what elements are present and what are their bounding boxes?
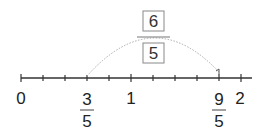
label-3-5-denominator: 5 (82, 112, 91, 131)
label-9-5-denominator: 5 (214, 112, 223, 131)
label-9-5-numerator: 9 (214, 90, 223, 109)
label-0: 0 (16, 89, 25, 108)
jump-numerator: 6 (149, 12, 158, 31)
number-line-diagram: 6 5 0 1 2 3 5 9 5 (0, 0, 266, 133)
label-2: 2 (235, 89, 244, 108)
jump-denominator: 5 (149, 44, 158, 63)
label-3-5-numerator: 3 (82, 90, 91, 109)
label-1: 1 (126, 89, 135, 108)
